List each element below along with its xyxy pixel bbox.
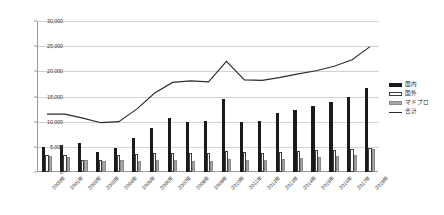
x-axis-tick-label: 2008年 — [193, 174, 210, 191]
x-axis-tick-label: 2013年 — [283, 174, 300, 191]
y-axis-tick-mark — [34, 146, 37, 147]
x-axis-tick-label: 2009年 — [211, 174, 228, 191]
total-line-series — [38, 21, 379, 172]
y-axis-tick-mark — [34, 46, 37, 47]
legend-swatch-madrid-icon — [389, 101, 402, 106]
legend-item[interactable]: マドプロ — [389, 100, 442, 106]
y-axis-tick-mark — [34, 71, 37, 72]
y-axis-tick-mark — [34, 172, 37, 173]
legend-swatch-domestic-icon — [389, 83, 402, 88]
y-axis-tick-mark — [34, 21, 37, 22]
x-axis-tick-label: 2012年 — [265, 174, 282, 191]
y-axis-tick-mark — [34, 96, 37, 97]
legend-item[interactable]: 国外 — [389, 91, 442, 97]
x-axis-tick-label: 2006年 — [158, 174, 175, 191]
chart-legend: 国内国外マドプロ合計 — [389, 82, 442, 115]
legend-item[interactable]: 国内 — [389, 82, 442, 88]
legend-swatch-total-icon — [389, 110, 402, 115]
x-axis-tick-label: 2018年 — [373, 174, 390, 191]
x-axis-tick-label: 2007年 — [175, 174, 192, 191]
x-axis-tick-label: 2003年 — [104, 174, 121, 191]
x-axis-tick-label: 2016年 — [337, 174, 354, 191]
x-axis-tick-label: 2000年 — [50, 174, 67, 191]
x-axis-tick-label: 2004年 — [122, 174, 139, 191]
legend-label: 合計 — [405, 109, 417, 115]
y-axis-tick-mark — [34, 121, 37, 122]
plot-area — [37, 21, 378, 172]
legend-item[interactable]: 合計 — [389, 109, 442, 115]
x-axis-tick-label: 2017年 — [355, 174, 372, 191]
x-axis-labels: 2000年2001年2002年2003年2004年2005年2006年2007年… — [37, 174, 378, 215]
legend-label: 国内 — [405, 82, 417, 88]
x-axis-tick-label: 2015年 — [319, 174, 336, 191]
x-axis-tick-label: 2011年 — [247, 174, 263, 190]
legend-label: 国外 — [405, 91, 417, 97]
x-axis-tick-label: 2005年 — [140, 174, 157, 191]
legend-swatch-overseas-icon — [389, 92, 402, 97]
x-axis-tick-label: 2014年 — [301, 174, 318, 191]
chart-container: 05,00010,00015,00020,00025,00030,000 200… — [0, 0, 444, 215]
total-line — [47, 47, 370, 123]
x-axis-tick-label: 2010年 — [229, 174, 246, 191]
legend-label: マドプロ — [405, 100, 429, 106]
x-axis-tick-label: 2002年 — [86, 174, 103, 191]
x-axis-tick-label: 2001年 — [68, 174, 85, 191]
